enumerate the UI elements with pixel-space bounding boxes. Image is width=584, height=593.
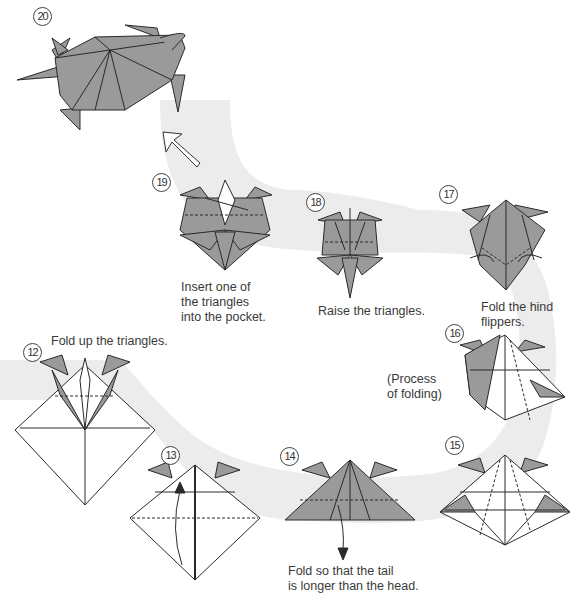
shell (55, 35, 185, 110)
step-number-15: 15 (445, 436, 464, 455)
step-number-16: 16 (445, 324, 464, 343)
flipper-rear-left (60, 108, 80, 130)
step-number-19: 19 (152, 173, 171, 192)
step-14-caption: Fold so that the tail is longer than the… (288, 564, 419, 593)
step-number-14: 14 (280, 447, 299, 466)
diagram-canvas (0, 0, 584, 593)
step-number-20: 20 (33, 7, 52, 26)
step-number-17: 17 (439, 185, 458, 204)
step-number-18: 18 (306, 193, 325, 212)
step-12-caption: Fold up the triangles. (51, 334, 168, 349)
step-number-13: 13 (161, 446, 180, 465)
step-18-caption: Raise the triangles. (318, 304, 425, 319)
step-16-caption: (Process of folding) (387, 372, 442, 402)
step-18-diagram (317, 208, 383, 298)
step-20-turtle (17, 25, 185, 130)
step-19-diagram (180, 180, 272, 270)
step-number-12: 12 (23, 343, 42, 362)
step-17-caption: Fold the hind flippers. (481, 300, 553, 330)
step-19-caption: Insert one of the triangles into the poc… (181, 280, 266, 325)
